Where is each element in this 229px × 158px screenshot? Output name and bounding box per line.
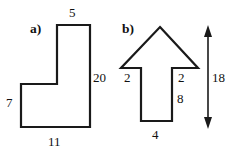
dimension-label-a-top: 5 <box>69 6 76 19</box>
dimension-label-a-bottom: 11 <box>48 135 61 148</box>
dimension-label-b-bottom: 4 <box>152 128 159 141</box>
geometry-figure: a) 5 20 7 11 b) 2 2 8 4 18 <box>0 0 229 158</box>
dimension-label-b-overall-height: 18 <box>212 71 225 84</box>
dimension-label-a-left: 7 <box>6 96 13 109</box>
dimension-label-b-left-barb: 2 <box>124 71 131 84</box>
arrow-shape-outline <box>121 27 198 121</box>
l-shape-outline <box>21 25 90 127</box>
dimension-label-b-right-barb: 2 <box>178 71 185 84</box>
overall-height-dimension-arrow <box>204 25 212 129</box>
part-label-a: a) <box>30 22 41 36</box>
dimension-label-b-stem: 8 <box>177 92 184 105</box>
dimension-label-a-right: 20 <box>93 71 106 84</box>
dimension-arrow-head-top <box>204 25 212 37</box>
part-label-b: b) <box>122 22 134 36</box>
dimension-arrow-head-bottom <box>204 117 212 129</box>
